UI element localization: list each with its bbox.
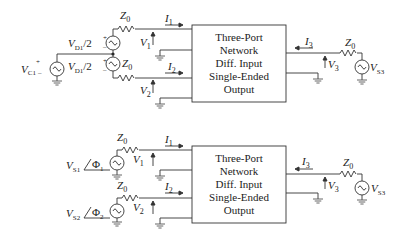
- ground-icon: [357, 200, 367, 204]
- vs3-label: VS3: [371, 182, 386, 197]
- circuit-diagrams: Three-Port Network Diff. Input Single-En…: [0, 0, 408, 241]
- vd-top-label: VD1/2: [68, 37, 92, 52]
- phi2-label: Φ2: [92, 206, 104, 221]
- v2-label: V2: [140, 84, 151, 99]
- resistor-z0-top-icon: [118, 26, 134, 32]
- v1-label: V1: [140, 36, 151, 51]
- v3-label: V3: [328, 179, 339, 194]
- ground-icon: [155, 224, 165, 228]
- z0-out-label: Z0: [345, 36, 355, 51]
- v1-arrow-icon: [151, 32, 155, 36]
- z0-top-label: Z0: [120, 9, 130, 24]
- phi1-label: Φ1: [92, 158, 104, 173]
- box-line-2: Network: [220, 165, 259, 177]
- v2-arrow-icon: [151, 201, 155, 205]
- box-line-1: Three-Port: [215, 31, 263, 43]
- box-line-3: Diff. Input: [216, 57, 263, 69]
- i1-arrow-icon: [179, 23, 183, 27]
- ground-icon: [112, 222, 122, 226]
- vd-top-source-icon: [106, 36, 120, 50]
- vc-minus: –: [37, 69, 42, 77]
- box-line-4: Single-Ended: [209, 70, 269, 82]
- vs2-label: VS2: [66, 207, 81, 222]
- i2-arrow-icon: [179, 71, 183, 75]
- ground-icon: [313, 79, 323, 83]
- vs3-source-icon: [355, 181, 369, 195]
- box-line-3: Diff. Input: [216, 178, 263, 190]
- i3-arrow-icon: [295, 167, 299, 171]
- box-line-5: Output: [224, 83, 255, 95]
- v3-label: V3: [328, 58, 339, 73]
- z0-bot-label: Z0: [122, 57, 132, 72]
- ground-icon: [52, 81, 62, 85]
- v1-arrow-icon: [151, 153, 155, 157]
- i1-arrow-icon: [179, 144, 183, 148]
- ground-icon: [313, 199, 323, 203]
- i2-arrow-icon: [179, 191, 183, 195]
- box-line-2: Network: [220, 44, 259, 56]
- ground-icon: [155, 56, 165, 60]
- vd-bot-minus: –: [102, 66, 107, 74]
- top-circuit: Three-Port Network Diff. Input Single-En…: [21, 9, 385, 108]
- i3-label: I3: [301, 155, 310, 170]
- v3-arrow-icon: [323, 56, 327, 60]
- ground-icon: [155, 104, 165, 108]
- vs2-source-icon: [110, 204, 124, 218]
- vc-plus: +: [36, 58, 40, 66]
- vs1-label: VS1: [66, 159, 81, 174]
- v2-arrow-icon: [151, 80, 155, 84]
- box-line-4: Single-Ended: [209, 191, 269, 203]
- z0-out-label: Z0: [343, 156, 353, 171]
- vd-bot-plus: +: [103, 57, 107, 65]
- vs3-source-icon: [355, 60, 369, 74]
- vd-top-plus: +: [103, 34, 107, 42]
- vs1-source-icon: [110, 156, 124, 170]
- v3-arrow-icon: [323, 177, 327, 181]
- v1-label: V1: [133, 153, 144, 168]
- v2-label: V2: [133, 201, 144, 216]
- box-line-1: Three-Port: [215, 152, 263, 164]
- vd-bot-label: VD1/2: [68, 60, 92, 75]
- box-line-5: Output: [224, 204, 255, 216]
- vc-label: VC1: [21, 63, 36, 77]
- ground-icon: [155, 176, 165, 180]
- z0-top-label: Z0: [117, 131, 127, 146]
- resistor-z0-bot-icon: [118, 75, 134, 81]
- vs3-label: VS3: [370, 61, 385, 76]
- vc-source-icon: [50, 62, 64, 76]
- vd-top-minus: –: [102, 43, 107, 51]
- vd-bot-source-icon: [106, 57, 120, 71]
- ground-icon: [357, 80, 367, 84]
- resistor-z0-out-icon: [340, 171, 356, 177]
- bottom-circuit: Three-Port Network Diff. Input Single-En…: [66, 131, 386, 228]
- i3-arrow-icon: [295, 46, 299, 50]
- z0-bot-label: Z0: [117, 179, 127, 194]
